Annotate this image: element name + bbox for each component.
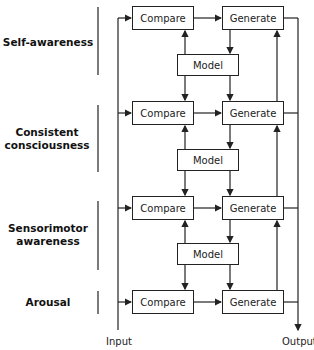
generate-box-2: Generate [222, 101, 284, 125]
level-label-consistent-consciousness: Consistent consciousness [4, 126, 90, 152]
compare-box-3: Compare [132, 196, 194, 220]
compare-box-4: Compare [132, 290, 194, 314]
generate-box-1: Generate [222, 6, 284, 30]
generate-box-3: Generate [222, 196, 284, 220]
level-label-sensorimotor-awareness: Sensorimotor awareness [6, 222, 90, 248]
generate-box-4: Generate [222, 290, 284, 314]
output-label: Output [282, 336, 314, 347]
model-box-3: Model [177, 243, 239, 265]
model-box-1: Model [177, 54, 239, 76]
model-box-2: Model [177, 149, 239, 171]
level-label-arousal: Arousal [0, 296, 96, 309]
level-label-self-awareness: Self-awareness [0, 36, 96, 49]
compare-box-2: Compare [132, 101, 194, 125]
input-label: Input [106, 336, 132, 347]
compare-box-1: Compare [132, 6, 194, 30]
